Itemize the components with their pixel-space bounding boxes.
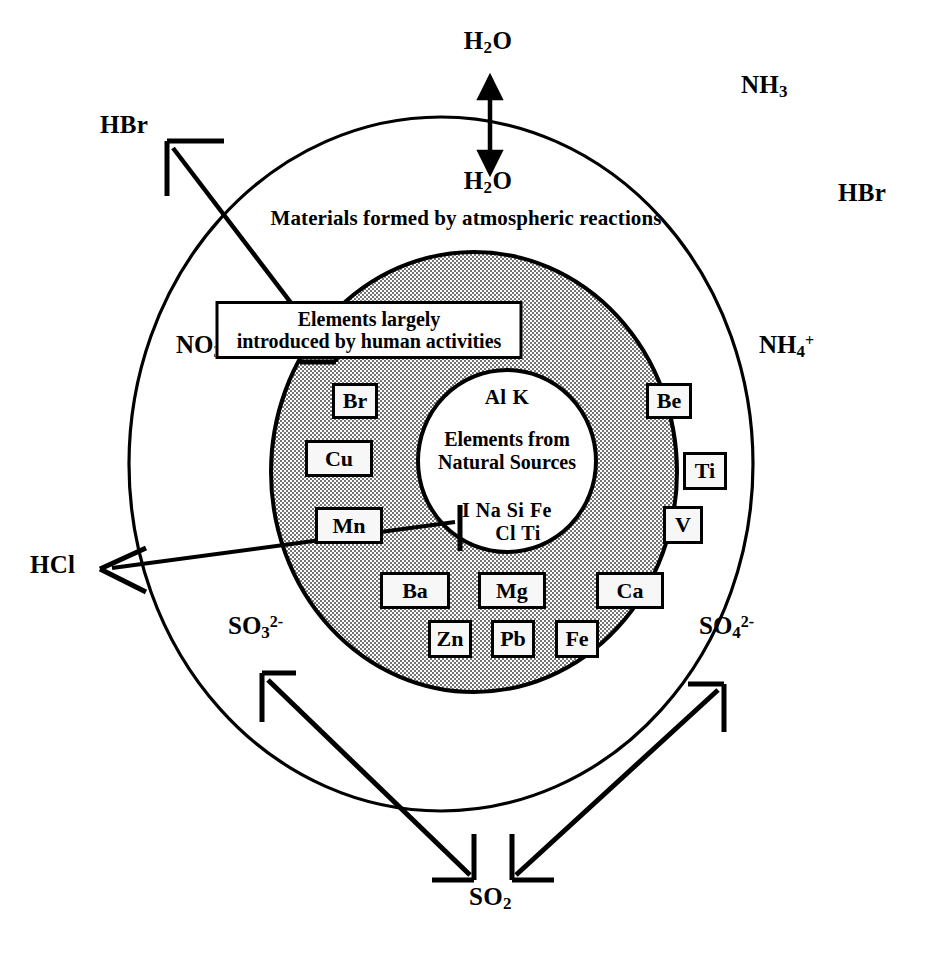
anthropogenic-callout-line1: Elements largely [225, 308, 514, 330]
core-caption-line1: Elements from [438, 428, 576, 451]
element-chip-cu: Cu [305, 440, 373, 477]
element-symbol: V [675, 512, 691, 538]
element-symbol: Ti [695, 458, 715, 484]
label-hbr-left: HBr [100, 112, 148, 137]
element-chip-be: Be [646, 383, 692, 419]
label-sulfite: SO32- [228, 613, 283, 641]
element-chip-mn: Mn [315, 507, 383, 544]
element-chip-fe: Fe [555, 620, 599, 658]
label-nh3: NH3 [741, 72, 788, 100]
so3-emission-arrow [262, 673, 474, 880]
element-chip-br: Br [332, 383, 378, 419]
core-elements-top-row: Al K [485, 385, 530, 410]
element-symbol: Cu [325, 446, 353, 472]
element-chip-ca: Ca [596, 572, 664, 609]
core-caption: Elements from Natural Sources [438, 428, 576, 474]
core-elements-row-1: I Na Si Fe [462, 499, 552, 522]
so4-emission-arrow [512, 684, 724, 880]
element-symbol: Mg [496, 578, 528, 604]
core-elements-row-2: Cl Ti [495, 522, 541, 545]
element-chip-ti: Ti [683, 452, 727, 490]
element-symbol: Br [343, 388, 367, 414]
label-h2o-inside: H2O [464, 168, 512, 196]
label-h2o-outside: H2O [464, 28, 512, 56]
outer-ring-caption: Materials formed by atmospheric reaction… [271, 208, 662, 229]
element-symbol: Fe [565, 626, 588, 652]
element-symbol: Mn [333, 513, 366, 539]
label-so2: SO2 [469, 884, 512, 912]
element-symbol: Zn [437, 626, 464, 652]
element-chip-mg: Mg [478, 572, 546, 609]
core-caption-line2: Natural Sources [438, 451, 576, 474]
anthropogenic-callout-box: Elements largely introduced by human act… [216, 301, 523, 359]
element-chip-zn: Zn [428, 620, 472, 658]
label-sulfate: SO42- [699, 613, 754, 641]
element-symbol: Ba [402, 578, 428, 604]
diagram-canvas: H2O H2O NH3 HBr HBr HCl SO2 NO3- NH4+ SO… [0, 0, 925, 964]
label-hbr-right: HBr [838, 180, 886, 205]
element-chip-pb: Pb [491, 620, 535, 658]
element-symbol: Pb [500, 626, 526, 652]
element-chip-ba: Ba [380, 572, 450, 609]
diagram-vector-layer [0, 0, 925, 964]
element-symbol: Be [657, 388, 681, 414]
label-ammonium: NH4+ [759, 332, 814, 360]
label-hcl: HCl [30, 552, 75, 577]
anthropogenic-callout-line2: introduced by human activities [225, 330, 514, 352]
element-symbol: Ca [617, 578, 644, 604]
element-chip-v: V [663, 506, 703, 544]
